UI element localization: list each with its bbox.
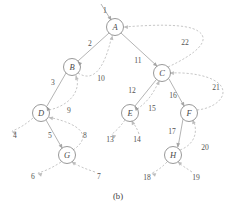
node-h: H xyxy=(165,147,182,164)
dfs-traversal-diagram: ABCDEFGH 1234567891011121314151617181920… xyxy=(0,0,232,211)
edge-G-out-6 xyxy=(38,162,61,173)
edge-E-out-13 xyxy=(112,120,125,134)
edge-order-label-20: 20 xyxy=(201,143,209,152)
edge-G-D-8 xyxy=(48,117,83,150)
node-g: G xyxy=(59,147,76,164)
node-label-a: A xyxy=(111,22,118,32)
node-label-b: B xyxy=(69,62,74,72)
edge-order-label-21: 21 xyxy=(212,83,220,92)
edge-order-label-19: 19 xyxy=(192,173,200,182)
node-label-c: C xyxy=(159,68,165,78)
edge-F-H-17 xyxy=(178,119,183,147)
edge-order-label-14: 14 xyxy=(133,135,141,144)
node-label-h: H xyxy=(169,150,177,160)
edge-order-label-17: 17 xyxy=(168,127,176,136)
edge-order-label-7: 7 xyxy=(97,172,101,181)
edge-order-label-13: 13 xyxy=(106,135,114,144)
node-e: E xyxy=(122,105,139,122)
edge-order-label-9: 9 xyxy=(67,106,71,115)
figure-caption: (b) xyxy=(113,191,123,201)
edge-order-label-4: 4 xyxy=(13,131,17,140)
node-c: C xyxy=(154,65,171,82)
node-label-f: F xyxy=(185,108,192,118)
edge-B-A-10 xyxy=(78,35,112,76)
edge-A-B xyxy=(78,33,109,61)
edge-D-out-4 xyxy=(12,118,33,131)
edge-H-out-18 xyxy=(152,162,167,173)
node-f: F xyxy=(181,105,198,122)
node-label-e: E xyxy=(126,108,133,118)
edge-B-D xyxy=(47,73,66,106)
edge-order-label-16: 16 xyxy=(169,91,177,100)
edge-order-label-11: 11 xyxy=(134,56,142,65)
figure-panel: ABCDEFGH 1234567891011121314151617181920… xyxy=(0,0,232,211)
node-d: D xyxy=(33,105,50,122)
arrowheads-layer xyxy=(11,16,196,177)
edge-order-label-10: 10 xyxy=(97,74,105,83)
edge-order-label-6: 6 xyxy=(31,172,35,181)
edge-C-A-22-arrowhead xyxy=(123,25,128,29)
edge-order-label-12: 12 xyxy=(128,86,136,95)
edge-G-out-6-arrowhead xyxy=(37,172,42,177)
node-a: A xyxy=(107,19,124,36)
node-label-g: G xyxy=(64,150,70,160)
edge-order-label-2: 2 xyxy=(88,39,92,48)
edge-C-E-12 xyxy=(135,80,156,106)
edge-order-label-18: 18 xyxy=(143,173,151,182)
edge-order-label-3: 3 xyxy=(51,78,55,87)
node-b: B xyxy=(64,59,81,76)
edge-order-label-22: 22 xyxy=(181,38,189,47)
node-label-d: D xyxy=(37,108,45,118)
edge-order-label-1: 1 xyxy=(103,6,107,15)
edge-order-label-15: 15 xyxy=(148,104,156,113)
edge-order-label-5: 5 xyxy=(48,131,52,140)
edge-order-label-8: 8 xyxy=(83,131,87,140)
